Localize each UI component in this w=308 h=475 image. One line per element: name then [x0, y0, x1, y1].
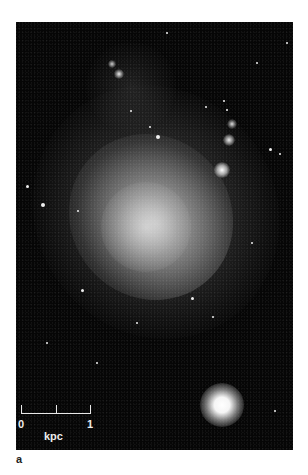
scale-bar-unit: kpc [44, 431, 63, 442]
galaxy-image-panel: 0 1 kpc [16, 22, 293, 450]
scale-bar-tick-left [21, 405, 22, 414]
scale-bar: 0 1 kpc [16, 22, 293, 450]
scale-bar-tick-right [90, 405, 91, 414]
scale-bar-label-one: 1 [87, 419, 93, 430]
scale-bar-label-zero: 0 [18, 419, 24, 430]
panel-label: a [16, 453, 22, 465]
scale-bar-tick-middle [56, 405, 57, 414]
